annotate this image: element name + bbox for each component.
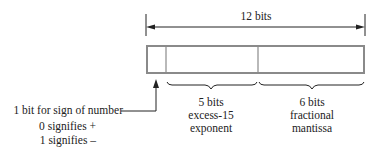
arrowhead-right-icon: [356, 25, 365, 30]
sign-one-label: 1 signifies –: [0, 134, 123, 147]
total-bits-label: 12 bits: [222, 10, 290, 23]
exponent-bias: excess-15: [178, 109, 244, 122]
mantissa-label: 6 bits fractional mantissa: [279, 96, 345, 135]
register-box: [147, 46, 364, 73]
sign-zero-label: 0 signifies +: [0, 120, 123, 133]
mantissa-type: fractional: [279, 109, 345, 122]
exponent-bits: 5 bits: [178, 96, 244, 109]
arrowhead-up-icon: [153, 79, 159, 88]
mantissa-bits: 6 bits: [279, 96, 345, 109]
mantissa-name: mantissa: [279, 122, 345, 135]
sign-pointer-line: [121, 86, 156, 111]
sign-bit-label: 1 bit for sign of number: [0, 104, 123, 117]
mantissa-brace: [259, 82, 364, 89]
exponent-label: 5 bits excess-15 exponent: [178, 96, 244, 135]
exponent-name: exponent: [178, 122, 244, 135]
arrowhead-left-icon: [146, 25, 155, 30]
exponent-brace: [167, 82, 257, 89]
